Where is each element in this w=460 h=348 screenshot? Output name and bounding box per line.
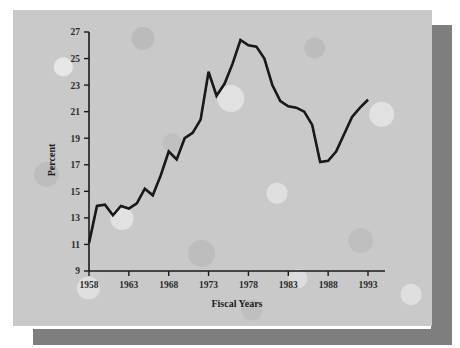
y-axis-title: Percent (46, 143, 57, 176)
line-chart: 9111315171921232527 19581963196819731978… (13, 10, 432, 326)
y-tick-label-27: 27 (71, 27, 81, 37)
panel-drop-shadow-bottom (33, 329, 452, 345)
x-tick-label-1993: 1993 (359, 280, 378, 290)
y-axis-tick-labels: 9111315171921232527 (71, 27, 81, 276)
y-tick-label-25: 25 (71, 54, 81, 64)
x-tick-label-1958: 1958 (80, 280, 99, 290)
y-tick-label-17: 17 (71, 160, 81, 170)
y-tick-label-13: 13 (71, 213, 81, 223)
x-tick-label-1968: 1968 (159, 280, 178, 290)
x-tick-label-1973: 1973 (199, 280, 218, 290)
y-tick-label-19: 19 (71, 134, 81, 144)
x-tick-label-1978: 1978 (239, 280, 258, 290)
y-tick-label-9: 9 (75, 266, 80, 276)
y-tick-label-23: 23 (71, 81, 81, 91)
y-tick-label-15: 15 (71, 187, 81, 197)
chart-panel: 9111315171921232527 19581963196819731978… (13, 10, 432, 326)
y-tick-label-11: 11 (71, 240, 80, 250)
y-tick-label-21: 21 (71, 107, 81, 117)
x-tick-label-1983: 1983 (279, 280, 298, 290)
x-tick-label-1963: 1963 (119, 280, 138, 290)
panel-drop-shadow-right (431, 25, 452, 345)
x-tick-label-1988: 1988 (319, 280, 338, 290)
figure-container: 9111315171921232527 19581963196819731978… (0, 0, 460, 348)
x-axis-tick-labels: 19581963196819731978198319881993 (80, 280, 378, 290)
x-axis-title: Fiscal Years (211, 298, 262, 309)
series-line-underlay (89, 40, 368, 243)
